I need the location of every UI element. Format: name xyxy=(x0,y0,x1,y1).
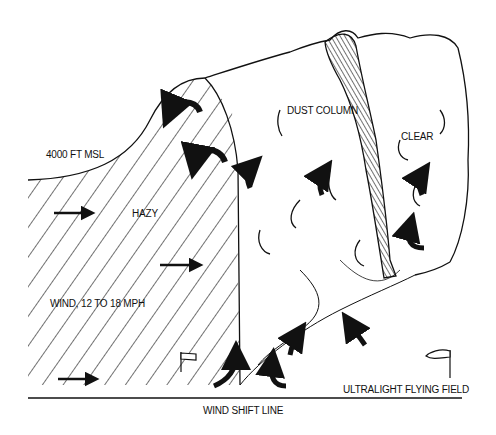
dust-column-label: DUST COLUMN xyxy=(287,105,358,116)
hazy-air-mass xyxy=(28,78,240,385)
altitude-label: 4000 FT MSL xyxy=(46,149,104,160)
flying-field-label: ULTRALIGHT FLYING FIELD xyxy=(343,384,469,395)
wind-shift-line-label: WIND SHIFT LINE xyxy=(203,405,283,416)
clear-label: CLEAR xyxy=(401,131,433,142)
dust-column-diagram xyxy=(0,0,496,435)
wind-speed-label: WIND, 12 TO 18 MPH xyxy=(50,298,145,309)
cloud-mass xyxy=(205,31,469,385)
hazy-label: HAZY xyxy=(132,208,158,219)
